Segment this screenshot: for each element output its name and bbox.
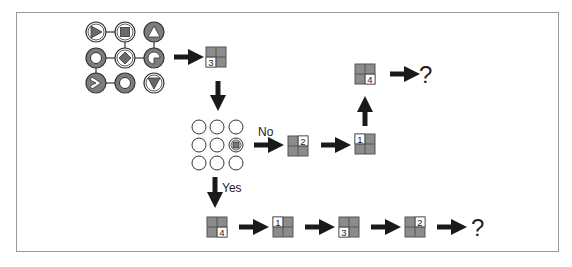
dot-grid (192, 120, 243, 170)
label-no: No (258, 125, 274, 139)
unknown-bottom: ? (471, 214, 484, 241)
tile-number: 3 (208, 57, 213, 68)
tile-number: 3 (341, 227, 346, 238)
symbol-diamond-icon (115, 48, 135, 68)
marked-square-icon (233, 142, 239, 148)
tile-number: 1 (275, 217, 280, 228)
symbol-chevron-right-icon (86, 73, 106, 93)
tile-number: 4 (367, 74, 372, 85)
tile-yes-2: 2 (405, 217, 425, 238)
tile-yes-4: 4 (207, 217, 227, 238)
symbol-ring-icon (115, 73, 135, 93)
dot-cell (192, 120, 206, 134)
dot-cell (210, 120, 224, 134)
tile-number: 2 (300, 136, 305, 147)
dot-cell (210, 156, 224, 170)
unknown-top: ? (419, 61, 432, 88)
symbol-triangle-up-icon (144, 22, 164, 42)
tile-yes-1: 1 (273, 217, 293, 238)
diagram-canvas: 3 No 2 1 4 ? Yes 4 1 3 2 ? (0, 0, 572, 267)
symbol-triangle-right-icon (86, 22, 106, 42)
dot-cell (229, 156, 243, 170)
dot-cell (192, 156, 206, 170)
tile-no-1: 1 (355, 134, 375, 155)
symbol-square-icon (115, 22, 135, 42)
tile-number: 1 (357, 134, 362, 145)
tile-no-4: 4 (355, 64, 375, 85)
dot-cell (192, 138, 206, 152)
tile-no-2: 2 (288, 136, 308, 157)
tile-number: 4 (219, 227, 224, 238)
dot-cell (210, 138, 224, 152)
dot-cell (229, 120, 243, 134)
label-yes: Yes (222, 181, 242, 195)
tile-start: 3 (206, 47, 226, 68)
symbol-grid (86, 22, 164, 93)
symbol-triangle-down-icon (144, 73, 164, 93)
tile-yes-3: 3 (339, 217, 359, 238)
symbol-ring-icon (86, 48, 106, 68)
symbol-notched-circle-icon (144, 48, 164, 68)
tile-number: 2 (417, 217, 422, 228)
